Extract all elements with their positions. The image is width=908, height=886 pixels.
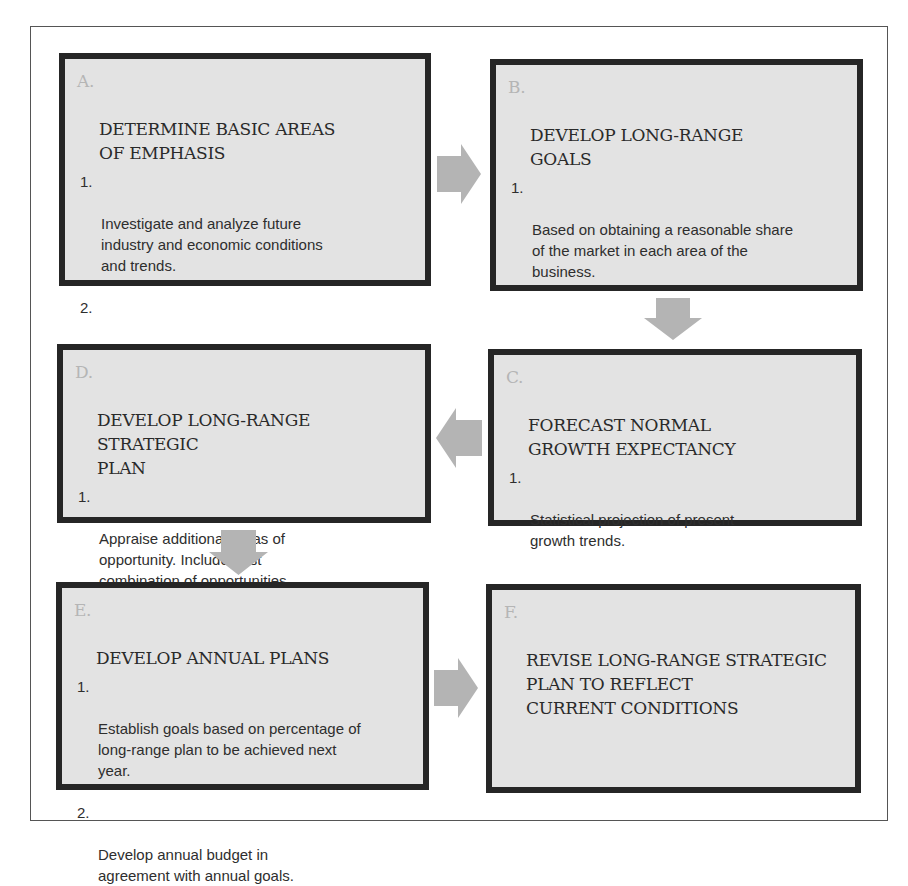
arrow-right-icon (437, 144, 481, 204)
step-item: 1. Investigate and analyze future indust… (77, 171, 413, 276)
step-title-f: F. REVISE LONG-RANGE STRATEGIC PLAN TO R… (504, 600, 843, 720)
step-letter-f: F. (504, 600, 518, 624)
step-letter-b: B. (508, 75, 525, 99)
step-title-text-b: DEVELOP LONG-RANGE GOALS (530, 125, 743, 169)
item-number: 2. (80, 297, 93, 318)
step-title-text-d: DEVELOP LONG-RANGE STRATEGIC PLAN (97, 410, 310, 478)
item-text: Statistical projection of present growth… (530, 511, 734, 549)
step-item: 2. Develop annual budget in agreement wi… (74, 802, 411, 886)
item-number: 1. (509, 467, 522, 488)
step-title-text-f: REVISE LONG-RANGE STRATEGIC PLAN TO REFL… (526, 650, 827, 718)
arrow-down-icon (644, 298, 702, 340)
step-letter-c: C. (506, 365, 523, 389)
item-number: 1. (77, 676, 90, 697)
step-item: 1. Based on obtaining a reasonable share… (508, 177, 845, 282)
item-text: Investigate and analyze future industry … (101, 215, 323, 274)
item-text: Develop annual budget in agreement with … (98, 846, 294, 884)
step-title-b: B. DEVELOP LONG-RANGE GOALS (508, 75, 845, 171)
step-title-a: A. DETERMINE BASIC AREAS OF EMPHASIS (77, 69, 413, 165)
item-number: 2. (77, 802, 90, 823)
arrow-left-icon (436, 408, 482, 468)
step-box-f: F. REVISE LONG-RANGE STRATEGIC PLAN TO R… (486, 584, 861, 793)
step-box-a: A. DETERMINE BASIC AREAS OF EMPHASIS 1. … (59, 53, 431, 286)
step-box-c: C. FORECAST NORMAL GROWTH EXPECTANCY 1. … (488, 349, 862, 526)
step-title-text-a: DETERMINE BASIC AREAS OF EMPHASIS (99, 119, 335, 163)
step-letter-e: E. (74, 598, 91, 622)
step-letter-d: D. (75, 360, 93, 384)
item-number: 1. (78, 486, 91, 507)
item-text: Establish goals based on percentage of l… (98, 720, 361, 779)
step-title-c: C. FORECAST NORMAL GROWTH EXPECTANCY (506, 365, 844, 461)
step-title-d: D. DEVELOP LONG-RANGE STRATEGIC PLAN (75, 360, 413, 480)
item-number: 1. (511, 177, 524, 198)
step-box-e: E. DEVELOP ANNUAL PLANS 1. Establish goa… (56, 582, 429, 790)
item-text: Based on obtaining a reasonable share of… (532, 221, 793, 280)
arrow-down-icon (209, 530, 268, 575)
step-title-text-e: DEVELOP ANNUAL PLANS (96, 648, 329, 668)
step-title-e: E. DEVELOP ANNUAL PLANS (74, 598, 411, 670)
step-item: 1. Statistical projection of present gro… (506, 467, 844, 551)
step-letter-a: A. (77, 69, 94, 93)
step-item: 1. Establish goals based on percentage o… (74, 676, 411, 781)
step-box-b: B. DEVELOP LONG-RANGE GOALS 1. Based on … (490, 59, 863, 291)
step-box-d: D. DEVELOP LONG-RANGE STRATEGIC PLAN 1. … (57, 344, 431, 523)
arrow-right-icon (434, 658, 478, 718)
item-number: 1. (80, 171, 93, 192)
step-title-text-c: FORECAST NORMAL GROWTH EXPECTANCY (528, 415, 735, 459)
